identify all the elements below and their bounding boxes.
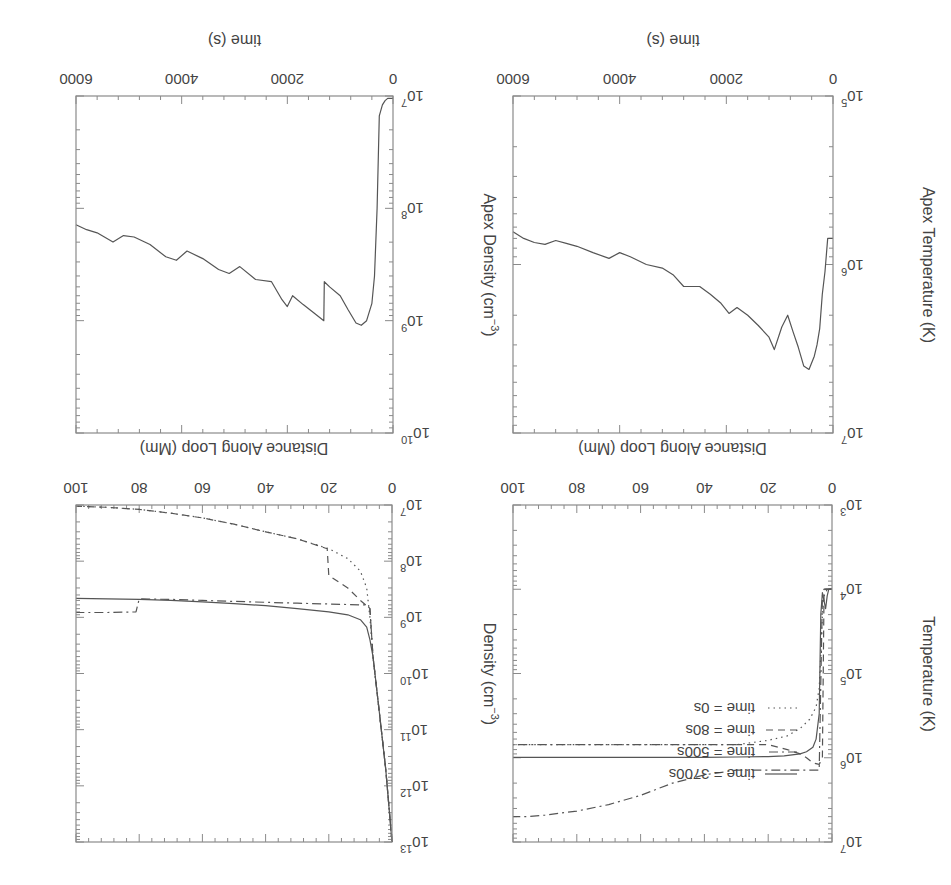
x-tick-label: 100 [500,480,525,497]
x-tick-label: 20 [760,480,777,497]
y-axis-label: Apex Temperature (K) [920,187,937,343]
x-axis-label: time (s) [646,32,699,49]
y-axis-label-close: ) [481,720,498,725]
x-tick-label: 4000 [165,71,198,88]
x-tick-label: 100 [63,480,88,497]
y-axis-label-exponent: −3 [489,707,501,720]
x-axis-label: time (s) [208,32,261,49]
x-tick-label: 0 [388,480,396,497]
y-axis-label-text: Density (cm [481,623,498,707]
legend-label: time = 80s [685,722,755,739]
figure: 020406080100103104105106107 Distance Alo… [0,0,951,885]
x-tick-label: 80 [131,480,148,497]
y-axis-label: Apex Density (cm−3) [481,193,501,336]
y-axis-label-text: Apex Density (cm [481,193,498,318]
x-tick-label: 40 [696,480,713,497]
x-axis-label: Distance Along Loop (Mm) [578,440,767,457]
legend-label: time = 500s [677,744,755,761]
x-tick-label: 2000 [271,71,304,88]
x-tick-label: 0 [829,71,837,88]
y-axis-label-exponent: −3 [489,319,501,332]
x-tick-label: 6000 [59,71,92,88]
x-tick-label: 0 [389,71,397,88]
x-tick-label: 20 [320,480,337,497]
x-tick-label: 4000 [603,71,636,88]
x-tick-label: 40 [257,480,274,497]
y-axis-label-close: ) [481,331,498,336]
legend-label: time = 0s [694,700,755,717]
x-tick-label: 0 [828,480,836,497]
y-axis-label: Temperature (K) [920,616,937,732]
x-tick-label: 60 [632,480,649,497]
x-tick-label: 80 [568,480,585,497]
x-axis-label: Distance Along Loop (Mm) [140,440,329,457]
x-tick-label: 2000 [710,71,743,88]
legend-label: time = 3700s [669,766,755,783]
x-tick-label: 6000 [496,71,529,88]
x-tick-label: 60 [194,480,211,497]
